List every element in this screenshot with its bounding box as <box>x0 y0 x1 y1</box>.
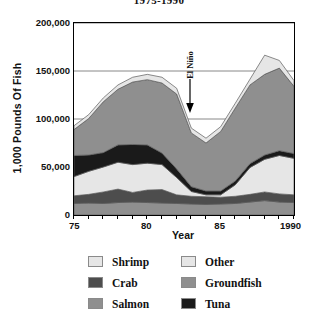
legend-label: Groundfish <box>205 277 262 289</box>
x-axis-title: Year <box>73 229 293 241</box>
x-tick-mark <box>220 215 221 219</box>
legend-label: Salmon <box>112 298 149 310</box>
x-tick-mark <box>102 215 103 219</box>
x-axis-tick-labels: 7580851990 <box>73 215 295 220</box>
x-tick-mark <box>249 215 250 219</box>
legend-label: Other <box>205 256 234 268</box>
stacked-area-svg <box>74 23 294 215</box>
x-tick-mark <box>264 215 265 219</box>
x-tick-mark <box>205 215 206 219</box>
legend-item-other[interactable]: Other <box>181 256 274 268</box>
x-tick-mark <box>190 215 191 219</box>
legend-row: ShrimpOther <box>88 251 288 272</box>
x-tick-mark <box>73 215 74 219</box>
legend-row: CrabGroundfish <box>88 272 288 293</box>
legend-swatch-tuna <box>181 298 196 309</box>
legend-swatch-shrimp <box>88 256 103 267</box>
legend-label: Crab <box>112 277 138 289</box>
y-axis-tick-labels: 050,000100,000150,000200,000 <box>22 0 70 325</box>
x-tick-mark <box>117 215 118 219</box>
legend-item-shrimp[interactable]: Shrimp <box>88 256 181 268</box>
legend-item-salmon[interactable]: Salmon <box>88 298 181 310</box>
legend-label: Tuna <box>205 298 230 310</box>
legend-item-groundfish[interactable]: Groundfish <box>181 277 274 289</box>
legend-swatch-other <box>181 256 196 267</box>
x-tick-mark <box>234 215 235 219</box>
legend-swatch-crab <box>88 277 103 288</box>
legend-item-tuna[interactable]: Tuna <box>181 298 274 310</box>
x-tick-mark <box>88 215 89 219</box>
x-tick-mark <box>161 215 162 219</box>
y-tick-label: 150,000 <box>24 65 70 76</box>
plot-area <box>73 22 295 216</box>
y-tick-label: 100,000 <box>24 113 70 124</box>
x-tick-mark <box>146 215 147 219</box>
y-tick-label: 0 <box>24 209 70 220</box>
chart-figure: 1975-1990 1,000 Pounds Of Fish 050,00010… <box>0 0 318 325</box>
y-tick-label: 200,000 <box>24 17 70 28</box>
x-tick-mark <box>176 215 177 219</box>
x-tick-mark <box>132 215 133 219</box>
legend-item-crab[interactable]: Crab <box>88 277 181 289</box>
x-tick-mark <box>293 215 294 219</box>
x-tick-mark <box>278 215 279 219</box>
y-tick-label: 50,000 <box>24 161 70 172</box>
legend-row: SalmonTuna <box>88 293 288 314</box>
legend-swatch-groundfish <box>181 277 196 288</box>
legend: ShrimpOtherCrabGroundfishSalmonTuna <box>88 251 288 314</box>
legend-swatch-salmon <box>88 298 103 309</box>
legend-label: Shrimp <box>112 256 149 268</box>
